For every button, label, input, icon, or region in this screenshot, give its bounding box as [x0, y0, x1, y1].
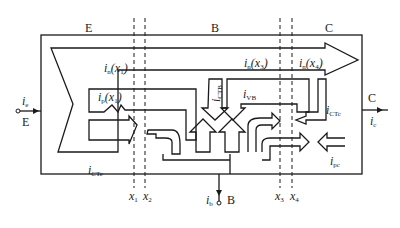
boundary-x4-label: x4	[290, 190, 299, 204]
base-injection-arrow	[147, 130, 180, 154]
region-base-label: B	[211, 22, 219, 34]
boundary-x3-label: x3	[275, 190, 284, 204]
boundary-lines	[134, 18, 292, 188]
collector-terminal-label: C	[368, 92, 376, 104]
current-in-x1-label: in(x1)	[104, 62, 128, 76]
current-ip-x1-label: ip(x1)	[98, 91, 122, 105]
up-arrow-2	[219, 119, 245, 152]
emitter-current-label: ie	[22, 95, 28, 109]
collector-arrow-icon	[377, 107, 383, 113]
boundary-x1-label: x1	[129, 190, 138, 204]
current-ivb-label: iVB	[243, 88, 256, 102]
base-bus	[163, 154, 230, 174]
base-arrow-icon	[216, 190, 222, 196]
vb-down-arrow	[221, 79, 309, 120]
region-collector-label: C	[325, 22, 333, 34]
current-ipc-label: ipc	[330, 155, 340, 169]
emitter-arrow-icon	[33, 108, 39, 114]
up-arrow-1	[190, 119, 216, 152]
region-emitter-label: E	[85, 22, 92, 34]
current-icte-label: iCTe	[88, 164, 103, 178]
collector-current-label: ic	[370, 115, 376, 129]
current-in-x4-label: in(x4)	[299, 57, 323, 71]
ctc-arrow	[296, 79, 326, 124]
base-current-label: ib	[206, 194, 213, 208]
boundary-x2-label: x2	[143, 190, 152, 204]
current-ictb-label: iCTB	[210, 85, 224, 102]
pc-collector-arrow	[262, 133, 309, 160]
base-terminal-label: B	[227, 194, 235, 206]
emitter-terminal-label: E	[22, 116, 29, 128]
current-in-x3-label: in(x3)	[244, 57, 268, 71]
recombination-arrow	[89, 116, 137, 144]
pc-incoming-arrow	[318, 133, 345, 151]
current-ictc-label: iCTc	[326, 104, 341, 118]
